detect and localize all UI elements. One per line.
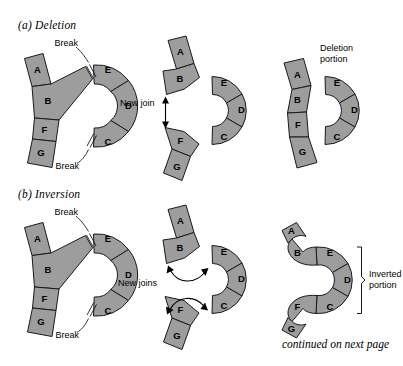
segment-label-C-a2: C <box>221 131 228 142</box>
segment-label-E-a2: E <box>221 77 227 88</box>
segment-label-E-b1: E <box>105 233 111 244</box>
stage-b3-inversion-result: Inverted portion A B F G E D C <box>282 223 402 339</box>
segment-label-G-a1: G <box>37 147 44 158</box>
new-join-arrowhead-down-a2 <box>162 122 169 129</box>
segment-label-B-b1: B <box>45 264 52 275</box>
break-leader-upper-a1 <box>76 47 89 63</box>
segment-label-F-a1: F <box>42 124 48 135</box>
segment-label-D-a2: D <box>238 104 245 115</box>
new-joins-label-b2: New joins <box>118 278 158 288</box>
break-label-lower-a1: Break <box>56 161 80 171</box>
inverted-portion-label-line1: Inverted <box>369 269 402 279</box>
segment-label-G-b2: G <box>173 330 180 341</box>
segment-label-B-b3: B <box>294 247 301 258</box>
segment-label-F-a2: F <box>178 135 184 146</box>
segment-label-G-a2: G <box>173 161 180 172</box>
continued-note: continued on next page <box>282 338 389 350</box>
segment-label-C-a1: C <box>105 136 112 147</box>
segment-label-E-a1: E <box>105 64 111 75</box>
stage-a3-deletion-result: Deletion portion A B F G E D C <box>284 43 359 168</box>
new-join-arrowhead-up-a2 <box>162 97 169 104</box>
inverted-portion-label-line2: portion <box>369 280 397 290</box>
segment-label-C-b1: C <box>105 305 112 316</box>
segment-label-B-b2: B <box>177 242 184 253</box>
new-joins-arrow-upper-b2 <box>171 271 206 282</box>
break-leader-upper-b1 <box>76 216 89 232</box>
break-label-lower-b1: Break <box>56 330 80 340</box>
figure-page: (a) Deletion (b) Inversion Break Break <box>0 0 403 366</box>
segment-label-C-a3: C <box>334 131 341 142</box>
segment-label-A-b2: A <box>177 215 184 226</box>
new-joins-arrowhead-upper-left-b2 <box>167 266 175 274</box>
segment-label-G-a3: G <box>299 146 306 157</box>
segment-label-D-b2: D <box>238 273 245 284</box>
segment-label-B-a1: B <box>45 95 52 106</box>
break-label-upper-b1: Break <box>55 207 79 217</box>
segment-label-G-b3: G <box>288 323 295 334</box>
segment-label-B-a3: B <box>294 94 301 105</box>
segment-B-b3 <box>288 239 317 265</box>
segment-label-E-b2: E <box>221 246 227 257</box>
stage-b1-intact-chromosome: Break Break A B F G E D C <box>25 207 138 340</box>
inverted-portion-bracket <box>357 247 365 314</box>
break-label-upper-a1: Break <box>55 38 79 48</box>
segment-label-F-a3: F <box>295 119 301 130</box>
segment-F-b3 <box>288 295 317 321</box>
segment-label-D-a3: D <box>351 104 358 115</box>
stage-a2-separated-fragments: New join A B F G E D C <box>120 36 246 181</box>
segment-label-E-b3: E <box>327 247 333 258</box>
segment-label-A-a1: A <box>34 64 41 75</box>
segment-label-C-b2: C <box>221 300 228 311</box>
segment-label-G-b1: G <box>37 316 44 327</box>
segment-label-B-a2: B <box>177 73 184 84</box>
segment-label-D-b3: D <box>344 274 351 285</box>
segment-label-A-b3: A <box>288 225 295 236</box>
chromosome-diagram: Break Break A B F G E D C <box>0 0 403 366</box>
segment-label-A-b1: A <box>34 233 41 244</box>
segment-label-F-b1: F <box>42 293 48 304</box>
new-join-label-line1-a2: New join <box>120 98 155 108</box>
segment-label-E-a3: E <box>334 77 340 88</box>
deletion-portion-label-line1: Deletion <box>320 43 353 53</box>
segment-label-A-a3: A <box>294 69 301 80</box>
segment-label-F-b3: F <box>295 301 301 312</box>
segment-label-A-a2: A <box>177 46 184 57</box>
segment-label-C-b3: C <box>327 301 334 312</box>
segment-label-F-b2: F <box>178 304 184 315</box>
deletion-portion-label-line2: portion <box>320 54 348 64</box>
